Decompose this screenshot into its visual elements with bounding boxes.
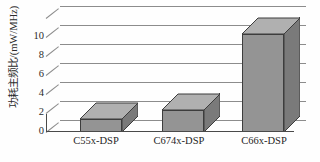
y-tick-label-10: 10: [22, 31, 44, 41]
category-label-c55x-dsp: C55x-DSP: [56, 134, 136, 148]
depth-line-12: [46, 8, 59, 19]
y-axis-line: [46, 114, 47, 132]
bar-front-face-3: [242, 34, 284, 132]
depth-line-10: [46, 27, 59, 38]
depth-line-4: [46, 84, 59, 95]
y-axis-title: 功耗主频比/(mW/MHz): [7, 0, 21, 117]
y-tick-label-6: 6: [22, 69, 44, 79]
gridline-12: [60, 6, 306, 7]
bar-front-face-2: [162, 110, 204, 132]
category-label-c66x-dsp: C66x-DSP: [224, 134, 304, 148]
bar-c674x-dsp[interactable]: [162, 110, 204, 132]
category-label-c674x-dsp: C674x-DSP: [136, 134, 222, 148]
bar-chart: 功耗主频比/(mW/MHz) 10 8 6 4 2 0: [0, 0, 320, 162]
y-tick-label-2: 2: [22, 107, 44, 117]
y-tick-label-8: 8: [22, 50, 44, 60]
depth-line-8: [46, 46, 59, 57]
x-axis-line: [46, 131, 294, 132]
y-tick-label-0: 0: [22, 126, 44, 136]
depth-line-2: [46, 103, 59, 114]
x-axis-category-labels: C55x-DSP C674x-DSP C66x-DSP: [46, 134, 312, 150]
depth-line-6: [46, 65, 59, 76]
y-axis-tick-labels: 10 8 6 4 2 0: [20, 0, 44, 162]
y-tick-label-4: 4: [22, 88, 44, 98]
plot-area: [46, 6, 308, 132]
bar-c66x-dsp[interactable]: [242, 34, 284, 132]
